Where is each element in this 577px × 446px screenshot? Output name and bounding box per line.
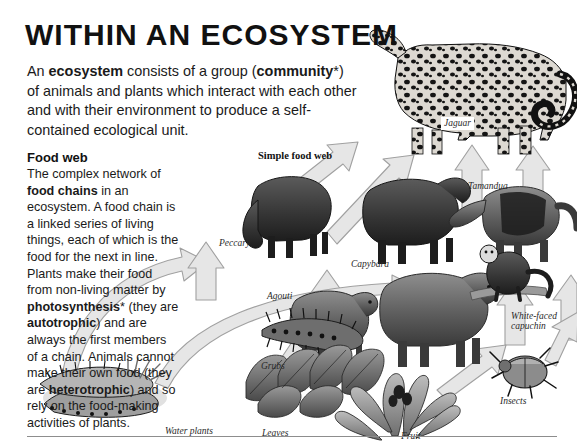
footer-rule — [27, 436, 557, 437]
label-insects: Insects — [500, 396, 526, 407]
label-white-faced-capuchin-line2: capuchin — [511, 321, 546, 332]
page-title: WITHIN AN ECOSYSTEM — [25, 18, 398, 52]
label-jaguar: Jaguar — [441, 117, 474, 130]
textbook-page: Simple food web Jaguar Tamandua Peccary … — [0, 0, 577, 446]
white-faced-capuchin-illustration — [470, 245, 551, 300]
jaguar-illustration — [370, 30, 576, 154]
label-peccary: Peccary — [219, 238, 250, 249]
intro-paragraph: An ecosystem consists of a group (commun… — [27, 62, 357, 140]
arrow-fruit-capuchin — [437, 345, 506, 400]
label-grubs: Grubs — [261, 361, 285, 372]
label-tamandua: Tamandua — [468, 181, 508, 192]
section-body-food-web: The complex network of food chains in an… — [27, 166, 179, 432]
diagram-caption: Simple food web — [258, 150, 332, 161]
label-leaves: Leaves — [262, 428, 288, 439]
label-agouti: Agouti — [267, 291, 292, 302]
peccary-illustration — [243, 177, 331, 258]
section-heading-food-web: Food web — [27, 150, 88, 165]
label-capybara: Capybara — [351, 259, 389, 270]
